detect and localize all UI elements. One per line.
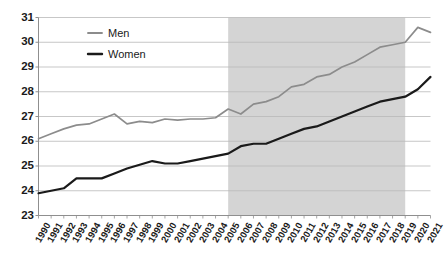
- legend: MenWomen: [88, 27, 146, 60]
- legend-label-men: Men: [108, 27, 129, 39]
- line-chart: 232425262728293031 MenWomen 199019911992…: [0, 0, 446, 273]
- legend-label-women: Women: [108, 48, 146, 60]
- plot-area: MenWomen: [0, 0, 446, 273]
